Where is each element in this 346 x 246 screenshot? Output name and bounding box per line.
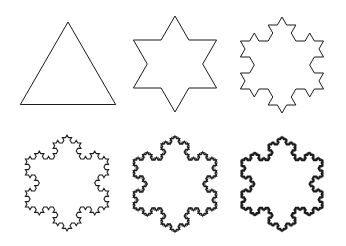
- koch-iteration-2: [240, 17, 323, 113]
- koch-iteration-4: [133, 136, 216, 232]
- koch-iteration-1: [133, 16, 216, 112]
- koch-snowflake-figure: [0, 0, 346, 246]
- koch-iteration-3: [25, 135, 108, 231]
- koch-iteration-5: [241, 137, 322, 231]
- koch-iteration-0: [20, 22, 115, 105]
